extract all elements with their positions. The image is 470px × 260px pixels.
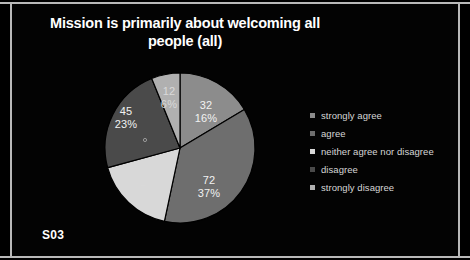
chart-legend: strongly agreeagreeneither agree nor dis… <box>310 106 460 196</box>
legend-swatch-icon <box>310 113 315 118</box>
legend-swatch-icon <box>310 149 315 154</box>
pie-slice-value-label: 45 <box>120 105 133 117</box>
legend-item-label: disagree <box>321 164 358 175</box>
slide-border-left <box>10 2 12 258</box>
legend-item[interactable]: strongly agree <box>310 106 460 124</box>
pie-slice-percent-label: 18% <box>129 191 152 203</box>
slide: Mission is primarily about welcoming all… <box>0 0 470 260</box>
legend-item-label: neither agree nor disagree <box>321 146 434 157</box>
legend-item-label: strongly agree <box>321 110 382 121</box>
legend-item-label: agree <box>321 128 346 139</box>
pie-slice-value-label: 72 <box>203 174 216 186</box>
slide-border-top <box>0 2 470 4</box>
pie-slice-percent-label: 23% <box>115 118 138 130</box>
legend-item[interactable]: neither agree nor disagree <box>310 142 460 160</box>
pie-slice-value-label: 34 <box>134 178 147 190</box>
page-title-line-1: Mission is primarily about welcoming all <box>20 14 350 32</box>
pie-slice-group <box>105 73 255 223</box>
pie-slice-percent-label: 37% <box>198 187 221 199</box>
legend-swatch-icon <box>310 185 315 190</box>
pie-chart-svg: 3216%7237%3418%4523%126% <box>93 66 268 232</box>
legend-item[interactable]: agree <box>310 124 460 142</box>
legend-swatch-icon <box>310 131 315 136</box>
legend-swatch-icon <box>310 167 315 172</box>
pie-slice-percent-label: 16% <box>195 112 218 124</box>
pie-slice-percent-label: 6% <box>161 98 177 110</box>
legend-item-label: strongly disagree <box>321 182 394 193</box>
pie-slice-value-label: 32 <box>200 99 213 111</box>
pie-slice-value-label: 12 <box>163 85 176 97</box>
legend-item[interactable]: disagree <box>310 160 460 178</box>
slide-corner-tag: S03 <box>42 228 64 242</box>
page-title-line-2: people (all) <box>20 32 350 50</box>
pie-chart: 3216%7237%3418%4523%126% <box>93 66 268 232</box>
page-title: Mission is primarily about welcoming all… <box>20 14 350 50</box>
legend-item[interactable]: strongly disagree <box>310 178 460 196</box>
slide-border-bottom <box>0 256 470 258</box>
